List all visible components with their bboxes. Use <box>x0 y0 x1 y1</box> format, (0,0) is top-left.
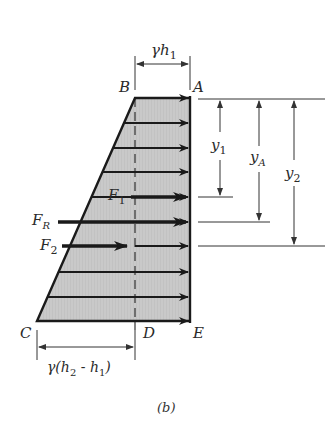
label-e: E <box>192 324 204 342</box>
label-f2: F2 <box>39 236 57 257</box>
label-ya: yA <box>249 148 266 168</box>
label-y2: y2 <box>284 164 300 185</box>
label-d: D <box>142 324 155 342</box>
pressure-diagram: γh1 B A C D E F1 FR F2 y1 yA y2 <box>0 0 327 433</box>
bottom-dimension <box>37 330 135 360</box>
top-dimension <box>135 56 190 90</box>
label-fr: FR <box>31 211 50 231</box>
figure-caption: (b) <box>157 400 175 415</box>
label-b: B <box>118 78 130 96</box>
label-y1: y1 <box>210 136 226 157</box>
bottom-dimension-label: γ(h2 - h1) <box>47 359 111 378</box>
label-c: C <box>20 324 32 342</box>
reference-lines <box>198 99 325 246</box>
top-dimension-label: γh1 <box>151 41 177 62</box>
label-a: A <box>191 78 204 96</box>
pressure-trapezoid <box>37 98 190 321</box>
